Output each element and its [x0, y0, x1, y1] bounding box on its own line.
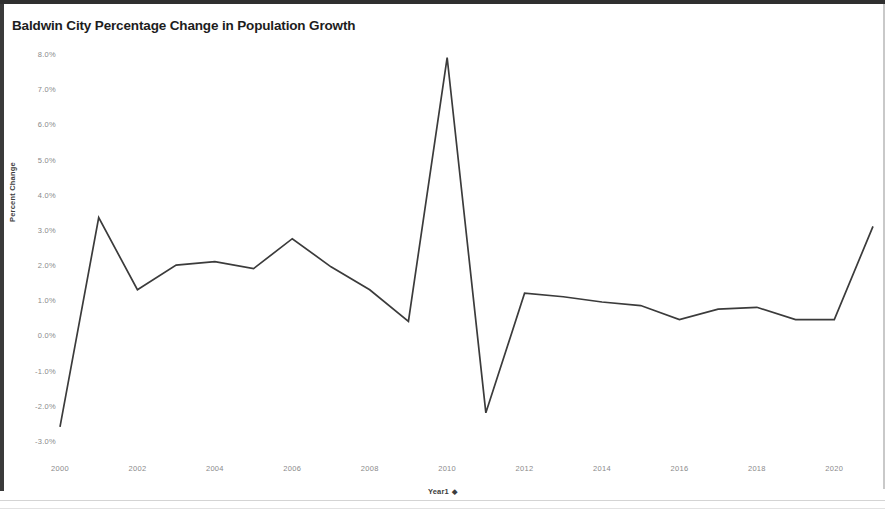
chart-screenshot: Baldwin City Percentage Change in Popula…	[0, 0, 885, 509]
percent-change-line	[60, 58, 873, 427]
line-chart-svg	[4, 40, 881, 465]
x-tick-label: 2008	[361, 464, 379, 473]
page-title: Baldwin City Percentage Change in Popula…	[12, 18, 355, 33]
x-tick-label: 2016	[670, 464, 688, 473]
sort-descending-icon[interactable]: ◆	[452, 488, 457, 496]
x-axis-tick-labels: 2000200220042006200820102012201420162018…	[4, 464, 881, 482]
x-tick-label: 2004	[206, 464, 224, 473]
x-tick-label: 2018	[748, 464, 766, 473]
document-bottom-border	[0, 500, 885, 501]
plot-area	[4, 40, 881, 465]
x-tick-label: 2010	[438, 464, 456, 473]
x-tick-label: 2014	[593, 464, 611, 473]
x-tick-label: 2002	[128, 464, 146, 473]
x-tick-label: 2006	[283, 464, 301, 473]
x-tick-label: 2000	[51, 464, 69, 473]
x-tick-label: 2012	[516, 464, 534, 473]
document-top-border	[0, 0, 885, 4]
x-axis-title-wrap: Year1◆	[0, 487, 885, 496]
x-axis-title: Year1	[428, 487, 449, 496]
x-tick-label: 2020	[825, 464, 843, 473]
